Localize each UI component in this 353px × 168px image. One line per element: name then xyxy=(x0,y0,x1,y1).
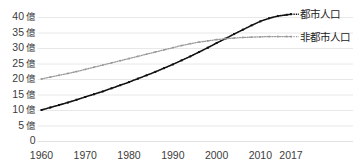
population-line-chart: 05億10億15億20億25億30億35億40億 196019701980199… xyxy=(0,0,353,168)
y-tick-unit: 億 xyxy=(26,27,36,38)
data-point-urban xyxy=(128,81,130,83)
y-tick-unit: 億 xyxy=(26,104,36,115)
data-point-rural xyxy=(224,38,226,40)
data-point-urban xyxy=(41,109,43,111)
legend-item-rural: 非都市人口 xyxy=(300,31,350,43)
y-axis-tick-label: 40億 xyxy=(0,11,36,22)
data-point-rural xyxy=(268,36,270,38)
data-point-rural xyxy=(119,60,121,62)
data-point-rural xyxy=(49,76,51,78)
data-point-rural xyxy=(189,43,191,45)
y-tick-unit: 億 xyxy=(26,120,36,131)
data-point-urban xyxy=(111,87,113,89)
data-point-urban xyxy=(154,71,156,73)
y-tick-unit: 億 xyxy=(26,11,36,22)
data-point-urban xyxy=(84,96,86,98)
data-point-rural xyxy=(233,37,235,39)
series-layer xyxy=(41,13,293,111)
y-axis-tick-label: 30億 xyxy=(0,42,36,53)
data-point-urban xyxy=(198,51,200,53)
data-point-rural xyxy=(102,64,104,66)
data-point-rural xyxy=(286,36,288,38)
y-axis-tick-label: 35億 xyxy=(0,27,36,38)
data-point-rural xyxy=(216,39,218,41)
y-tick-value: 10 xyxy=(12,103,24,115)
y-tick-unit: 億 xyxy=(26,58,36,69)
data-point-urban xyxy=(102,90,104,92)
y-axis-tick-label: 10億 xyxy=(0,104,36,115)
data-point-urban xyxy=(58,104,60,106)
data-point-rural xyxy=(163,49,165,51)
data-point-urban xyxy=(189,55,191,57)
data-point-urban xyxy=(277,15,279,17)
data-point-rural xyxy=(260,36,262,38)
data-point-urban xyxy=(268,17,270,19)
x-axis-tick-label: 1980 xyxy=(109,150,149,161)
data-point-urban xyxy=(137,78,139,80)
data-point-urban xyxy=(49,107,51,109)
data-point-rural xyxy=(207,40,209,42)
data-point-urban xyxy=(163,67,165,69)
data-point-rural xyxy=(76,71,78,73)
data-point-rural xyxy=(137,56,139,58)
x-axis-tick-label: 2017 xyxy=(271,150,311,161)
y-tick-value: 5 xyxy=(18,119,24,131)
series-line-urban xyxy=(42,14,292,110)
data-point-rural xyxy=(58,74,60,76)
x-axis-tick-label: 1990 xyxy=(153,150,193,161)
data-point-rural xyxy=(242,37,244,39)
y-axis-tick-label: 5億 xyxy=(0,120,36,131)
data-point-rural xyxy=(41,78,43,80)
data-point-rural xyxy=(198,41,200,43)
y-tick-unit: 億 xyxy=(26,89,36,100)
data-point-urban xyxy=(207,47,209,49)
y-axis-tick-label: 25億 xyxy=(0,58,36,69)
data-point-urban xyxy=(76,99,78,101)
x-axis-tick-label: 1960 xyxy=(22,150,62,161)
data-point-urban xyxy=(286,14,288,16)
legend-item-urban: 都市人口 xyxy=(300,8,340,20)
y-tick-unit: 億 xyxy=(26,42,36,53)
y-axis-tick-label: 15億 xyxy=(0,89,36,100)
y-tick-value: 40 xyxy=(12,10,24,22)
plot-area xyxy=(0,0,353,168)
data-point-urban xyxy=(146,74,148,76)
data-point-rural xyxy=(277,36,279,38)
y-tick-value: 20 xyxy=(12,72,24,84)
data-point-urban xyxy=(251,24,253,26)
data-point-rural xyxy=(67,73,69,75)
data-point-urban xyxy=(181,59,183,61)
data-point-urban xyxy=(67,102,69,104)
data-point-urban xyxy=(216,42,218,44)
data-point-rural xyxy=(93,66,95,68)
data-point-rural xyxy=(128,58,130,60)
data-point-urban xyxy=(119,84,121,86)
data-point-urban xyxy=(93,93,95,95)
y-tick-value: 30 xyxy=(12,41,24,53)
y-tick-value: 25 xyxy=(12,57,24,69)
data-point-rural xyxy=(111,62,113,64)
data-point-rural xyxy=(146,53,148,55)
data-point-rural xyxy=(172,47,174,49)
data-point-urban xyxy=(172,63,174,65)
data-point-rural xyxy=(84,69,86,71)
y-tick-value: 35 xyxy=(12,26,24,38)
data-point-urban xyxy=(233,33,235,35)
data-point-urban xyxy=(242,29,244,31)
data-point-rural xyxy=(181,45,183,47)
y-tick-value: 15 xyxy=(12,88,24,100)
x-axis-tick-label: 1970 xyxy=(65,150,105,161)
series-line-rural xyxy=(42,37,292,79)
data-point-urban xyxy=(259,20,261,22)
y-axis-tick-label: 20億 xyxy=(0,73,36,84)
data-point-rural xyxy=(251,36,253,38)
y-tick-value: 0 xyxy=(30,134,36,146)
y-axis-tick-label: 0 xyxy=(0,135,36,146)
x-axis-tick-label: 2000 xyxy=(197,150,237,161)
data-point-rural xyxy=(154,51,156,53)
y-tick-unit: 億 xyxy=(26,73,36,84)
